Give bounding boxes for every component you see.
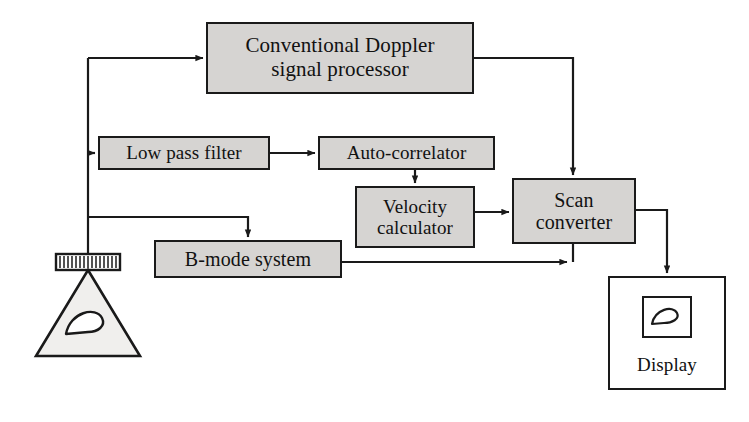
node-label: Auto-correlator [343,142,471,163]
node-label: B-mode system [181,248,315,270]
scan-cone-icon [36,270,140,356]
transducer [30,252,146,364]
display-image-icon [642,296,692,338]
node-b-mode-system[interactable]: B-mode system [154,240,342,278]
node-label: Scan converter [532,189,616,234]
block-diagram: Conventional Doppler signal processor Lo… [0,0,749,422]
node-scan-converter[interactable]: Scan converter [512,178,636,244]
node-label: Display [633,354,701,375]
wire-scan-converter-to-display [636,210,667,273]
node-auto-correlator[interactable]: Auto-correlator [318,136,495,170]
node-label: Velocity calculator [373,196,457,239]
node-display[interactable]: Display [608,276,726,390]
wire-transducer-to-b-mode-system [88,217,248,237]
node-label: Conventional Doppler signal processor [241,34,438,81]
node-velocity-calculator[interactable]: Velocity calculator [355,186,475,248]
node-conventional-doppler-signal-processor[interactable]: Conventional Doppler signal processor [206,22,474,94]
node-low-pass-filter[interactable]: Low pass filter [98,136,270,170]
node-label: Low pass filter [122,142,245,163]
